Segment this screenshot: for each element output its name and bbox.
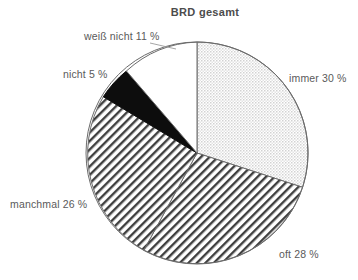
pie-label-nicht: nicht 5 % [63, 68, 108, 80]
pie-label-manchmal: manchmal 26 % [10, 198, 87, 210]
pie-label-immer: immer 30 % [289, 72, 347, 84]
pie-label-oft: oft 28 % [279, 248, 319, 260]
pie-label-weiss-nicht: weiß nicht 11 % [84, 30, 160, 42]
page-title: BRD gesamt [0, 6, 358, 18]
pie-chart-figure: BRD gesamt immer [0, 0, 358, 280]
pie-chart-svg [0, 0, 358, 280]
